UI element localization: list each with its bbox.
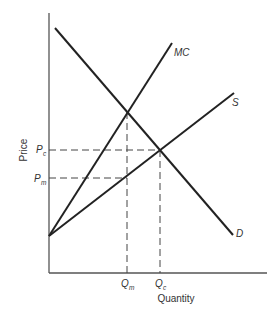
demand-curve xyxy=(55,28,233,235)
pc-label: P xyxy=(36,144,43,155)
pm-label: P xyxy=(34,173,41,184)
supply-curve xyxy=(49,93,234,236)
qm-label: Q xyxy=(121,278,129,289)
y-axis-title: Price xyxy=(18,138,29,161)
pm-subscript: m xyxy=(41,179,47,186)
supply-label: S xyxy=(232,97,239,108)
mc-label: MC xyxy=(174,47,190,58)
qm-subscript: m xyxy=(129,284,135,291)
qc-label: Q xyxy=(155,278,163,289)
marginal-cost-curve xyxy=(49,43,172,236)
qc-subscript: c xyxy=(163,284,167,291)
x-axis-title: Quantity xyxy=(157,293,194,304)
demand-label: D xyxy=(236,228,243,239)
pc-subscript: c xyxy=(43,150,47,157)
supply-demand-diagram: MC S D P c P m Q m Q c Price Quantity xyxy=(0,0,277,314)
